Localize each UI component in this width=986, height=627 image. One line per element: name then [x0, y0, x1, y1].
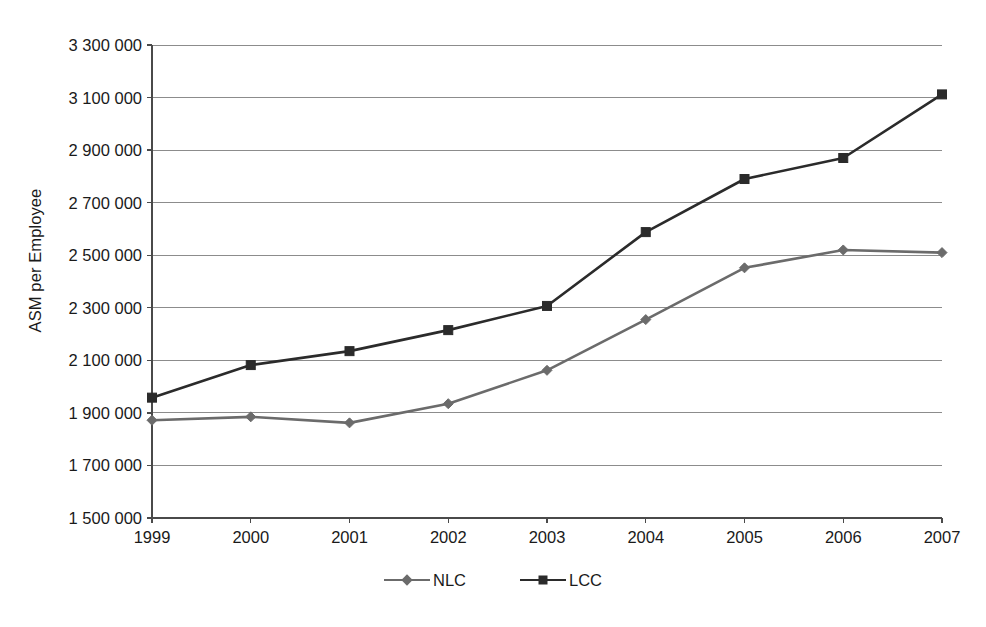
chart-legend: NLCLCC	[0, 560, 986, 600]
legend-marker-square	[539, 576, 548, 585]
x-axis-tick-label: 2002	[430, 528, 467, 547]
legend-label: NLC	[433, 571, 466, 590]
x-axis-tick-label: 2006	[825, 528, 862, 547]
x-axis-tick-label: 2003	[529, 528, 566, 547]
legend-item-nlc[interactable]: NLC	[384, 571, 466, 590]
x-axis-tick-label: 1999	[134, 528, 171, 547]
legend-marker-diamond	[401, 574, 412, 585]
legend-swatch-nlc	[384, 572, 430, 588]
x-axis-tick-label: 2007	[924, 528, 961, 547]
x-axis-tick-label: 2001	[331, 528, 368, 547]
line-chart: ASM per Employee 1 500 0001 700 0001 900…	[0, 0, 986, 627]
legend-label: LCC	[569, 571, 602, 590]
legend-swatch-lcc	[520, 572, 566, 588]
x-axis-tick-labels: 199920002001200220032004200520062007	[0, 0, 986, 560]
x-axis-tick-label: 2004	[627, 528, 664, 547]
x-axis-tick-label: 2000	[232, 528, 269, 547]
legend-item-lcc[interactable]: LCC	[520, 571, 602, 590]
x-axis-tick-label: 2005	[726, 528, 763, 547]
